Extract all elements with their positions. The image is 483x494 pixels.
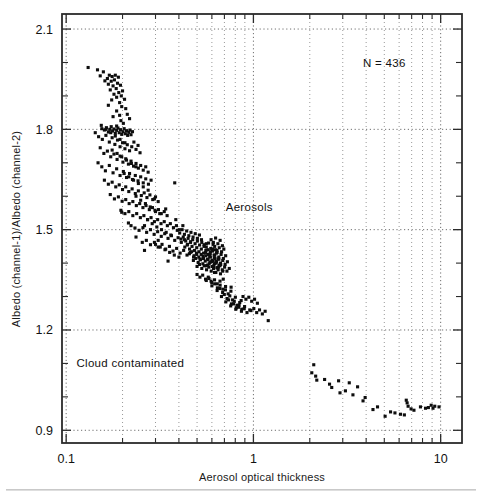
data-point [232, 302, 235, 305]
data-point [118, 101, 121, 104]
data-point [142, 185, 145, 188]
data-point [115, 109, 118, 112]
data-point [111, 75, 114, 78]
data-point [141, 241, 144, 244]
data-point [218, 287, 221, 290]
data-point [139, 164, 142, 167]
data-point [157, 200, 160, 203]
x-tick-label: 1 [250, 452, 257, 466]
data-point [166, 224, 169, 227]
data-point [103, 179, 106, 182]
data-point [206, 248, 209, 251]
plot-frame [62, 14, 462, 443]
data-point [200, 238, 203, 241]
data-point [156, 230, 159, 233]
data-point [169, 233, 172, 236]
data-point [229, 304, 232, 307]
data-point [173, 181, 176, 184]
data-point [109, 193, 112, 196]
data-point [128, 117, 131, 120]
data-point [117, 195, 120, 198]
y-tick-label: 0.9 [36, 424, 53, 438]
data-point [144, 165, 147, 168]
data-point [229, 290, 232, 293]
data-point [119, 84, 122, 87]
data-point [221, 244, 224, 247]
data-point [192, 235, 195, 238]
data-point [153, 197, 156, 200]
data-point [191, 238, 194, 241]
data-point [179, 252, 182, 255]
data-point [106, 150, 109, 153]
y-tick-label: 2.1 [36, 23, 53, 37]
data-point [126, 134, 129, 137]
data-point [139, 199, 142, 202]
data-point [102, 70, 105, 73]
data-point [121, 161, 124, 164]
data-point [134, 162, 137, 165]
data-point [134, 195, 137, 198]
data-point [221, 268, 224, 271]
scatter-chart: 0.1110 0.91.21.51.82.1 N = 436AerosolsCl… [0, 0, 483, 494]
data-point [134, 235, 137, 238]
data-point [123, 172, 126, 175]
data-point [237, 306, 240, 309]
data-point [120, 155, 123, 158]
data-point [113, 197, 116, 200]
data-point [129, 133, 132, 136]
data-point [226, 260, 229, 263]
data-point [193, 254, 196, 257]
data-point [155, 225, 158, 228]
data-point [315, 379, 318, 382]
data-point [205, 268, 208, 271]
data-point [154, 243, 157, 246]
data-point [223, 266, 226, 269]
data-point [137, 182, 140, 185]
data-point [128, 149, 131, 152]
data-point [174, 218, 177, 221]
data-point [150, 179, 153, 182]
data-point [187, 237, 190, 240]
data-point [250, 300, 253, 303]
data-point [190, 250, 193, 253]
data-point [160, 228, 163, 231]
data-point [143, 249, 146, 252]
data-point [228, 294, 231, 297]
data-point [143, 224, 146, 227]
data-point [125, 159, 128, 162]
data-point [213, 271, 216, 274]
data-point [120, 133, 123, 136]
data-point [120, 211, 123, 214]
data-point [187, 234, 190, 237]
data-point [198, 244, 201, 247]
data-point [220, 250, 223, 253]
data-point [224, 300, 227, 303]
data-point [131, 214, 134, 217]
data-point [393, 411, 396, 414]
data-point [129, 224, 132, 227]
data-point [116, 158, 119, 161]
data-point [146, 218, 149, 221]
y-tick-label: 1.8 [36, 123, 53, 137]
data-point [431, 407, 434, 410]
data-point [121, 89, 124, 92]
data-point [188, 248, 191, 251]
data-point [142, 181, 145, 184]
data-point [120, 105, 123, 108]
data-point [424, 407, 427, 410]
data-point [222, 278, 225, 281]
data-point [338, 391, 341, 394]
data-point [234, 296, 237, 299]
data-point [337, 379, 340, 382]
data-point [219, 272, 222, 275]
data-point [189, 241, 192, 244]
data-point [163, 210, 166, 213]
data-point [207, 277, 210, 280]
data-point [240, 299, 243, 302]
data-point [114, 74, 117, 77]
data-point [114, 185, 117, 188]
data-point [173, 239, 176, 242]
data-point [261, 312, 264, 315]
data-point [112, 84, 115, 87]
data-point [194, 242, 197, 245]
